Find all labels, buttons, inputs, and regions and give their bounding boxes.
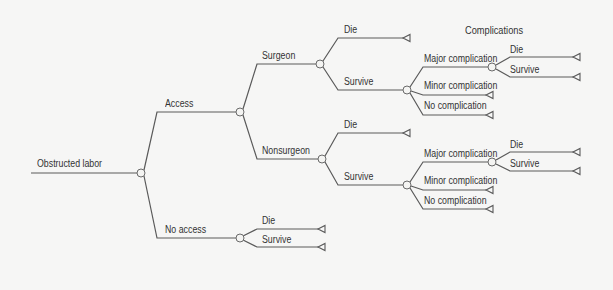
- label-surgeon-major-die: Die: [510, 44, 523, 56]
- edge-nonsurgeon-die: [325, 133, 404, 156]
- terminal-node-icon: [573, 74, 580, 81]
- chance-node-icon: [236, 234, 244, 242]
- label-nonsurgeon: Nonsurgeon: [262, 145, 310, 157]
- label-surgeon-die: Die: [344, 24, 357, 36]
- terminal-node-icon: [573, 168, 580, 175]
- label-surgeon-minor: Minor complication: [424, 80, 497, 92]
- chance-node-icon: [137, 169, 145, 177]
- terminal-node-icon: [486, 187, 493, 194]
- label-nonsurgeon-minor: Minor complication: [424, 175, 497, 187]
- edge-access: [144, 112, 236, 170]
- label-nonsurgeon-major-die: Die: [510, 139, 523, 151]
- label-no-access-survive: Survive: [262, 234, 291, 246]
- chance-node-icon: [236, 108, 244, 116]
- complications-header: Complications: [465, 24, 523, 36]
- terminal-node-icon: [403, 130, 410, 137]
- label-no-access-die: Die: [262, 215, 275, 227]
- terminal-node-icon: [318, 244, 325, 251]
- label-nonsurgeon-die: Die: [344, 119, 357, 131]
- label-surgeon-major: Major complication: [424, 53, 497, 65]
- chance-node-icon: [318, 155, 326, 163]
- chance-node-icon: [403, 86, 411, 94]
- label-access: Access: [165, 98, 193, 110]
- terminal-node-icon: [573, 54, 580, 61]
- label-surgeon: Surgeon: [262, 50, 295, 62]
- terminal-node-icon: [486, 112, 493, 119]
- edge-surgeon-die: [323, 38, 404, 61]
- label-no-access: No access: [165, 224, 206, 236]
- terminal-node-icon: [486, 206, 493, 213]
- chance-node-icon: [316, 60, 324, 68]
- label-nonsurgeon-survive: Survive: [344, 171, 373, 183]
- terminal-node-icon: [318, 226, 325, 233]
- label-nonsurgeon-none: No complication: [424, 195, 487, 207]
- terminal-node-icon: [486, 92, 493, 99]
- label-nonsurgeon-major-survive: Survive: [510, 158, 539, 170]
- chance-node-icon: [403, 181, 411, 189]
- label-surgeon-none: No complication: [424, 100, 487, 112]
- decision-tree-canvas: Complications Obstructed labor Access No…: [0, 0, 613, 290]
- label-surgeon-major-survive: Survive: [510, 64, 539, 76]
- label-obstructed-labor: Obstructed labor: [37, 158, 102, 170]
- edge-surgeon: [243, 64, 316, 109]
- terminal-node-icon: [403, 35, 410, 42]
- label-surgeon-survive: Survive: [344, 76, 373, 88]
- label-nonsurgeon-major: Major complication: [424, 148, 497, 160]
- terminal-node-icon: [573, 149, 580, 156]
